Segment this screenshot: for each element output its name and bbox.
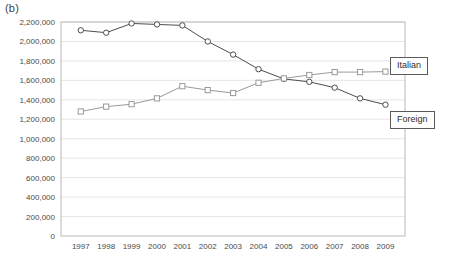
x-axis-tick-label: 2002 [199,242,217,251]
x-axis-tick-label: 2006 [300,242,318,251]
data-point-marker [180,84,185,89]
x-axis-tick-label: 2001 [173,242,191,251]
data-point-marker [383,69,388,74]
data-point-marker [154,96,159,101]
x-axis-tick-label: 2005 [275,242,293,251]
data-point-marker [332,69,337,74]
data-point-marker [78,109,83,114]
legend-label-italian: Italian [397,60,421,70]
y-axis-tick-label: 1,000,000 [19,135,55,144]
data-point-marker [332,85,337,90]
y-axis-tick-labels: 0200,000400,000600,000800,0001,000,0001,… [19,18,55,241]
y-axis-tick-label: 600,000 [26,174,55,183]
data-point-marker [154,22,159,27]
y-axis-tick-label: 400,000 [26,193,55,202]
y-axis-tick-label: 1,600,000 [19,76,55,85]
legend-label-foreign: Foreign [397,114,428,124]
data-point-marker [231,90,236,95]
data-point-marker [180,23,185,28]
data-point-marker [103,30,108,35]
x-axis-tick-label: 2000 [148,242,166,251]
data-point-marker [281,76,286,81]
y-axis-tick-label: 200,000 [26,213,55,222]
y-axis-tick-label: 800,000 [26,154,55,163]
x-axis-tick-label: 2009 [377,242,395,251]
data-point-marker [357,96,362,101]
gridlines [61,22,405,217]
series-foreign [78,69,388,114]
x-axis-tick-label: 2008 [351,242,369,251]
data-point-marker [307,79,312,84]
data-point-marker [129,102,134,107]
data-point-marker [383,102,388,107]
x-axis-tick-label: 1997 [72,242,90,251]
y-axis-tick-label: 1,200,000 [19,115,55,124]
data-point-marker [256,80,261,85]
data-point-marker [230,52,235,57]
y-axis-tick-label: 1,800,000 [19,57,55,66]
data-point-marker [256,66,261,71]
data-point-marker [357,69,362,74]
data-point-marker [129,21,134,26]
y-axis-tick-label: 2,200,000 [19,18,55,27]
x-axis-tick-label: 1998 [97,242,115,251]
data-point-marker [205,87,210,92]
y-axis-tick-label: 1,400,000 [19,96,55,105]
data-point-marker [78,28,83,33]
x-axis-tick-label: 2004 [250,242,268,251]
line-chart: 0200,000400,000600,000800,0001,000,0001,… [0,0,451,258]
y-axis-tick-label: 0 [51,232,56,241]
x-axis-tick-label: 2003 [224,242,242,251]
data-point-marker [205,39,210,44]
data-point-marker [307,72,312,77]
x-axis-tick-labels: 1997199819992000200120022003200420052006… [72,242,395,251]
y-axis-tick-label: 2,000,000 [19,37,55,46]
figure-container: (b) 0200,000400,000600,000800,0001,000,0… [0,0,451,258]
x-axis-tick-label: 1999 [123,242,141,251]
legend-item-foreign: Foreign [390,111,435,129]
legend-item-italian: Italian [390,57,428,75]
data-point-marker [104,104,109,109]
x-axis-tick-label: 2007 [326,242,344,251]
